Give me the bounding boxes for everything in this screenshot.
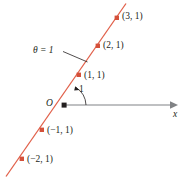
figure-canvas (0, 0, 187, 179)
point-label-neg1-1: (−1, 1) (47, 126, 73, 136)
point-marker-2-1 (96, 44, 100, 48)
origin-dot (62, 103, 67, 108)
x-axis-label: x (173, 110, 177, 120)
point-label-1-1: (1, 1) (84, 71, 105, 81)
point-label-2-1: (2, 1) (103, 41, 124, 51)
point-label-neg2-1: (−2, 1) (27, 155, 53, 165)
theta-leader-line (63, 52, 88, 63)
point-marker-neg1-1 (40, 128, 44, 132)
point-marker-neg2-1 (20, 157, 24, 161)
theta-equals-label: θ = 1 (33, 46, 54, 56)
point-marker-1-1 (77, 73, 81, 77)
polar-line-figure: O x 1 θ = 1 (3, 1) (2, 1) (1, 1) (−1, 1)… (0, 0, 187, 179)
theta-line (6, 4, 126, 177)
point-label-3-1: (3, 1) (122, 12, 143, 22)
angle-label: 1 (79, 85, 84, 95)
x-axis-arrowhead (170, 101, 178, 109)
point-marker-3-1 (115, 16, 119, 20)
origin-label: O (46, 99, 53, 109)
